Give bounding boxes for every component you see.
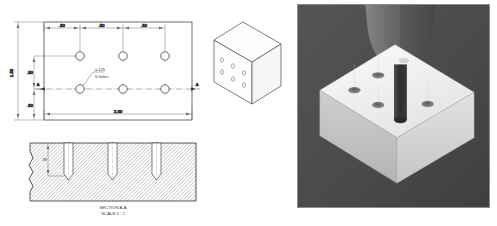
figure-root: .50 .50 .50 .50 .50: [0, 0, 497, 226]
horizontal-dim-chain: [44, 24, 165, 56]
dim-h-2: .50: [98, 23, 105, 28]
section-title: SECTION A-A: [99, 205, 126, 210]
hole-r1-c1: [76, 52, 84, 60]
drill-bit-shaft: [394, 64, 407, 119]
hole-diameter-callout: ⌀.125: [95, 67, 106, 72]
dim-overall-width: 2.00: [114, 109, 123, 114]
dim-v-inner-1: .50: [27, 70, 34, 75]
section-scale: SCALE 5 : 1: [101, 211, 125, 216]
section-view-group: .38: [29, 141, 196, 201]
section-marker-right: A: [196, 82, 199, 87]
drilling-render-svg: [298, 5, 489, 207]
render-hole-5: [399, 58, 409, 63]
isometric-block-group: [214, 22, 281, 104]
hole-r2-c2: [119, 85, 127, 93]
engineering-drawing-panel: .50 .50 .50 .50 .50: [0, 0, 292, 226]
plate-outline: [44, 22, 192, 120]
render-hole-2: [372, 72, 384, 78]
dim-v-inner-2: .50: [27, 103, 34, 108]
hole-r2-c1: [76, 85, 84, 93]
hole-r1-c3: [161, 52, 169, 60]
hole-circles: [76, 52, 169, 93]
hole-r1-c2: [119, 52, 127, 60]
vertical-dim-chain: [30, 56, 80, 120]
dim-overall-height: 1.50: [9, 68, 14, 77]
drilling-render-panel: [297, 4, 490, 208]
drill-bit-entry: [394, 116, 407, 123]
dim-h-3: .50: [141, 23, 148, 28]
dim-h-1: .50: [59, 23, 66, 28]
hole-count-callout: 6 holes: [95, 74, 109, 79]
dim-section-depth: .38: [41, 157, 47, 162]
hole-r2-c3: [161, 85, 169, 93]
drawing-svg: .50 .50 .50 .50 .50: [0, 0, 292, 226]
section-marker-left: A: [37, 82, 40, 87]
